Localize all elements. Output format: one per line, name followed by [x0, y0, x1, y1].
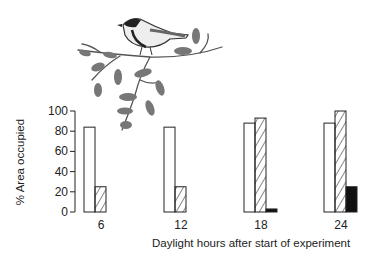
bar-solid-24: [346, 187, 357, 212]
bar-hatched-6: [95, 187, 106, 212]
y-tick-label: 80: [55, 124, 69, 138]
x-axis-label: Daylight hours after start of experiment: [152, 237, 351, 249]
y-tick-label: 40: [55, 165, 69, 179]
y-tick-label: 100: [48, 104, 68, 118]
bar-open-24: [324, 123, 335, 212]
bar-hatched-12: [175, 187, 186, 212]
y-tick-label: 20: [55, 185, 69, 199]
bar-open-12: [164, 127, 175, 212]
bar-open-6: [84, 127, 95, 212]
bar-open-18: [244, 123, 255, 212]
bird-branch-illustration: [78, 19, 222, 130]
x-axis: 6121824: [98, 218, 348, 232]
x-tick-label: 24: [334, 218, 348, 232]
bar-hatched-24: [335, 111, 346, 212]
y-axis-label: % Area occupied: [14, 119, 26, 205]
x-tick-label: 18: [254, 218, 268, 232]
y-axis: 020406080100: [48, 104, 75, 219]
y-tick-label: 60: [55, 144, 69, 158]
x-tick-label: 6: [98, 218, 105, 232]
y-tick-label: 0: [61, 205, 68, 219]
bar-hatched-18: [255, 118, 266, 212]
x-tick-label: 12: [174, 218, 188, 232]
bar-solid-18: [266, 209, 277, 212]
chart: 020406080100 % Area occupied 6121824 Day…: [0, 0, 376, 255]
